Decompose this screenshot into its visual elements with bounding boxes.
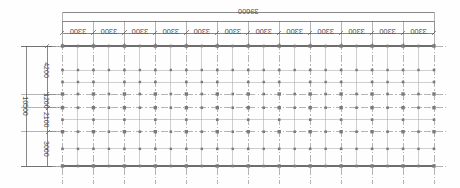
column-node-8-3: [308, 130, 311, 133]
secondary-intersection-node-11: [293, 69, 295, 71]
beam-node-mid-11-1: [417, 93, 420, 96]
beam-node-vert-11-1: [402, 81, 405, 84]
beam-node-vert-11-0: [402, 69, 405, 72]
column-node-4-3: [185, 130, 188, 133]
beam-node-mid-3-3: [170, 130, 173, 133]
beam-node-mid-6-1: [262, 93, 265, 96]
column-node-2-1: [123, 92, 126, 95]
beam-node-mid-4-3: [201, 130, 204, 133]
column-node-3-1: [154, 92, 157, 95]
column-node-12-4: [432, 164, 435, 167]
beam-node-mid-8-1: [324, 93, 327, 96]
dim-label-bay-10: 3300: [379, 27, 395, 36]
secondary-intersection-node-17: [417, 69, 419, 71]
beam-node-mid-7-2: [293, 106, 296, 109]
dim-label-bay-6: 3300: [256, 27, 272, 36]
secondary-intersection-node-23: [263, 148, 265, 150]
beam-node-mid-11-4: [417, 165, 420, 168]
column-node-11-3: [401, 130, 404, 133]
secondary-intersection-node-20: [170, 148, 172, 150]
beam-node-vert-2-0: [123, 69, 126, 72]
column-node-4-2: [185, 106, 188, 109]
beam-node-vert-10-2: [371, 118, 374, 121]
column-node-10-4: [370, 164, 373, 167]
dim-label-segment-2: 2100: [43, 112, 50, 128]
beam-node-mid-9-0: [355, 45, 358, 48]
beam-node-mid-1-1: [108, 93, 111, 96]
beam-node-mid-5-0: [231, 45, 234, 48]
beam-node-mid-4-0: [201, 45, 204, 48]
beam-node-mid-3-2: [170, 106, 173, 109]
column-node-5-4: [216, 164, 219, 167]
column-node-6-3: [247, 130, 250, 133]
beam-node-vert-7-3: [278, 148, 281, 151]
secondary-intersection-node-16: [386, 81, 388, 83]
secondary-intersection-node-13: [324, 81, 326, 83]
beam-node-mid-7-3: [293, 130, 296, 133]
beam-node-mid-9-1: [355, 93, 358, 96]
beam-node-vert-4-2: [185, 118, 188, 121]
beam-node-vert-10-0: [371, 69, 374, 72]
floor-plan-svg: 3300330033003300330033003300330033003300…: [0, 0, 460, 188]
secondary-intersection-node-8: [232, 69, 234, 71]
column-node-10-1: [370, 92, 373, 95]
beam-node-mid-5-2: [231, 106, 234, 109]
beam-node-mid-6-4: [262, 165, 265, 168]
column-node-12-3: [432, 130, 435, 133]
secondary-intersection-node-9: [263, 69, 265, 71]
beam-node-mid-9-4: [355, 165, 358, 168]
column-node-9-1: [339, 92, 342, 95]
secondary-intersection-node-28: [417, 148, 419, 150]
column-node-4-1: [185, 92, 188, 95]
drawing-canvas: 3300330033003300330033003300330033003300…: [0, 0, 460, 188]
beam-node-vert-11-2: [402, 118, 405, 121]
secondary-intersection-node-14: [355, 69, 357, 71]
beam-node-vert-3-0: [154, 69, 157, 72]
beam-node-vert-3-3: [154, 148, 157, 151]
beam-node-vert-4-1: [185, 81, 188, 84]
beam-node-mid-1-0: [108, 45, 111, 48]
beam-node-mid-8-0: [324, 45, 327, 48]
beam-node-mid-8-3: [324, 130, 327, 133]
beam-node-vert-0-3: [61, 148, 64, 151]
beam-node-mid-10-2: [386, 106, 389, 109]
secondary-intersection-node-21: [201, 148, 203, 150]
column-node-11-1: [401, 92, 404, 95]
beam-node-vert-12-1: [433, 81, 436, 84]
beam-node-vert-7-2: [278, 118, 281, 121]
beam-node-mid-7-1: [293, 93, 296, 96]
beam-node-mid-1-4: [108, 165, 111, 168]
beam-node-vert-9-1: [340, 81, 343, 84]
dim-label-overall-vertical: 10500: [22, 96, 29, 116]
beam-node-vert-2-3: [123, 148, 126, 151]
beam-node-mid-2-0: [139, 45, 142, 48]
column-node-3-2: [154, 106, 157, 109]
beam-node-mid-6-0: [262, 45, 265, 48]
beam-node-mid-6-2: [262, 106, 265, 109]
beam-node-mid-0-2: [77, 106, 80, 109]
column-node-4-4: [185, 164, 188, 167]
secondary-intersection-node-2: [108, 69, 110, 71]
column-node-11-2: [401, 106, 404, 109]
column-node-6-4: [247, 164, 250, 167]
beam-node-vert-12-0: [433, 69, 436, 72]
beam-node-mid-0-4: [77, 165, 80, 168]
beam-node-vert-9-0: [340, 69, 343, 72]
column-node-8-4: [308, 164, 311, 167]
dim-label-bay-11: 3300: [410, 27, 426, 36]
beam-node-vert-4-3: [185, 148, 188, 151]
beam-node-mid-8-2: [324, 106, 327, 109]
secondary-intersection-node-3: [139, 69, 141, 71]
column-node-9-2: [339, 106, 342, 109]
beam-node-vert-8-1: [309, 81, 312, 84]
secondary-intersection-node-5: [170, 69, 172, 71]
column-node-1-2: [92, 106, 95, 109]
beam-node-vert-7-1: [278, 81, 281, 84]
beam-node-vert-3-1: [154, 81, 157, 84]
secondary-intersection-node-7: [201, 81, 203, 83]
column-node-9-3: [339, 130, 342, 133]
column-node-2-2: [123, 106, 126, 109]
column-node-5-1: [216, 92, 219, 95]
beam-node-vert-8-0: [309, 69, 312, 72]
dim-label-segment-3: 3000: [43, 141, 50, 157]
